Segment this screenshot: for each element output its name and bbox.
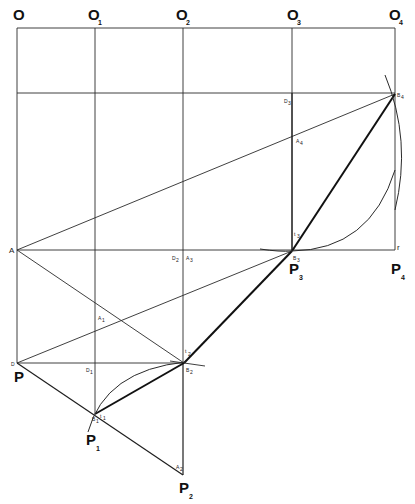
label-t2: t xyxy=(185,348,187,354)
label-P: P xyxy=(14,368,24,385)
label-O1-sub: 1 xyxy=(98,19,102,26)
label-D2-sub: 2 xyxy=(176,257,179,263)
label-O2-sub: 2 xyxy=(186,19,190,26)
label-D: D xyxy=(11,361,15,367)
label-B3-sub: 3 xyxy=(297,257,300,263)
label-t3: t xyxy=(294,231,296,237)
label-P3-sub: 3 xyxy=(299,274,303,281)
line-A-B4 xyxy=(17,94,395,250)
p-labels: P P 1 P 2 P 3 P 4 xyxy=(14,260,405,500)
label-A1-sub: 1 xyxy=(102,317,105,323)
geometric-construction-diagram: O O 1 O 2 O 3 O 4 P P 1 P 2 P 3 P 4 A D … xyxy=(0,0,415,504)
label-P2-sub: 2 xyxy=(189,493,193,500)
grid-lines xyxy=(17,28,395,414)
label-P2: P xyxy=(179,479,189,496)
line-D-B3 xyxy=(17,251,292,363)
label-P4-sub: 4 xyxy=(401,274,405,281)
arcs xyxy=(88,75,402,432)
segment-B2-B3 xyxy=(184,251,292,363)
segment-B1-B2 xyxy=(95,363,184,414)
top-labels: O O 1 O 2 O 3 O 4 xyxy=(13,6,403,26)
label-t1: t xyxy=(100,413,102,419)
label-r: r xyxy=(397,243,400,252)
label-P1-sub: 1 xyxy=(96,445,100,452)
label-t1-sub: 1 xyxy=(103,415,106,421)
label-O3-sub: 3 xyxy=(297,19,301,26)
label-A2-sub: 2 xyxy=(180,466,183,472)
construction-lines xyxy=(17,93,395,475)
label-D1-sub: 1 xyxy=(90,369,93,375)
label-D3-sub: 3 xyxy=(288,100,291,106)
label-A4-sub: 4 xyxy=(300,140,303,146)
point-labels: A D D 1 D 2 D 3 A 1 A 2 A 3 A 4 B 1 B 2 … xyxy=(9,92,404,472)
label-O4-sub: 4 xyxy=(399,19,403,26)
segment-B3-B4 xyxy=(292,94,395,251)
arc-B3-B4-lower xyxy=(260,170,395,251)
line-P-P2 xyxy=(17,363,183,475)
label-t3-sub: 3 xyxy=(297,233,300,239)
label-P4: P xyxy=(391,260,401,277)
label-t2-sub: 2 xyxy=(188,351,191,357)
label-P1: P xyxy=(86,431,96,448)
main-polyline xyxy=(95,94,395,414)
label-B4-sub: 4 xyxy=(401,94,404,100)
label-A: A xyxy=(9,246,15,255)
label-A3-sub: 3 xyxy=(190,257,193,263)
line-A-B2 xyxy=(17,250,184,363)
label-B2-sub: 2 xyxy=(190,369,193,375)
label-B1-sub: 1 xyxy=(96,418,99,424)
label-O: O xyxy=(13,6,25,23)
